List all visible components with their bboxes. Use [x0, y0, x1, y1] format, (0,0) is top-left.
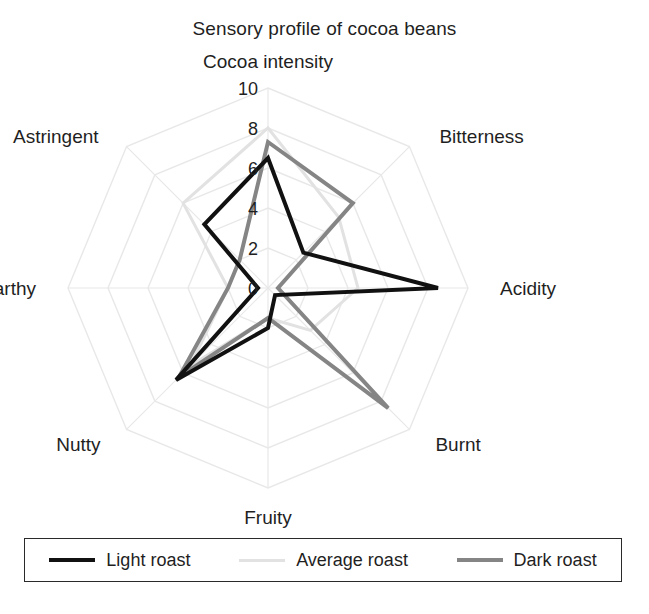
- radial-tick-label: 10: [238, 79, 258, 99]
- chart-page: Sensory profile of cocoa beans 0246810 C…: [0, 0, 649, 614]
- legend-label: Dark roast: [514, 550, 597, 571]
- axis-label-burnt: Burnt: [435, 434, 481, 455]
- radar-chart: 0246810 Cocoa intensityBitternessAcidity…: [0, 0, 649, 530]
- axis-label-fruity: Fruity: [244, 507, 292, 528]
- legend-swatch-icon: [457, 558, 503, 562]
- radial-tick-label: 4: [248, 199, 258, 219]
- radial-tick-label: 2: [248, 239, 258, 259]
- legend-label: Average roast: [296, 550, 408, 571]
- legend-item-average-roast[interactable]: Average roast: [239, 550, 408, 571]
- legend-label: Light roast: [106, 550, 190, 571]
- axis-label-astringent: Astringent: [13, 126, 99, 147]
- radial-tick-label: 8: [248, 119, 258, 139]
- radar-series-group: [176, 128, 438, 408]
- axis-label-cocoa-intensity: Cocoa intensity: [203, 51, 333, 72]
- axis-label-bitterness: Bitterness: [439, 126, 523, 147]
- axis-label-earthy: Earthy: [0, 278, 36, 299]
- radar-series-dark-roast: [179, 142, 388, 408]
- legend-item-dark-roast[interactable]: Dark roast: [457, 550, 597, 571]
- radial-tick-label: 0: [248, 279, 258, 299]
- radial-tick-label: 6: [248, 159, 258, 179]
- axis-label-nutty: Nutty: [56, 434, 101, 455]
- legend-item-light-roast[interactable]: Light roast: [49, 550, 190, 571]
- legend-swatch-icon: [49, 558, 95, 562]
- axis-label-acidity: Acidity: [500, 278, 556, 299]
- legend-swatch-icon: [239, 559, 285, 562]
- chart-legend: Light roastAverage roastDark roast: [24, 538, 622, 582]
